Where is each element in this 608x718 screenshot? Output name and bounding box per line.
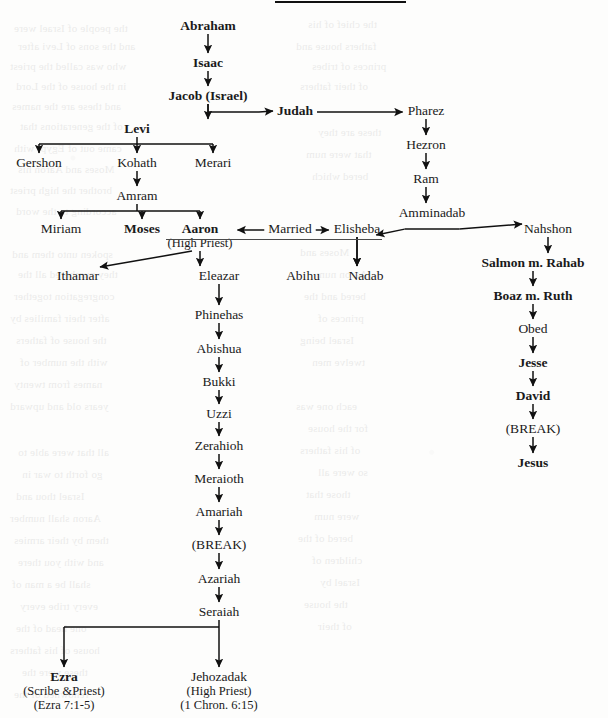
- node-abishua: Abishua: [197, 341, 242, 356]
- node-label: Merari: [195, 155, 232, 170]
- node-ithamar: Ithamar: [57, 268, 99, 283]
- node-isaac: Isaac: [193, 55, 223, 70]
- node-label: (BREAK): [506, 421, 561, 436]
- node-jehozadak: Jehozadak(High Priest)(1 Chron. 6:15): [180, 669, 257, 712]
- node-label: Gershon: [16, 155, 62, 170]
- node-label: Zerahioh: [195, 438, 244, 453]
- node-label: Boaz m. Ruth: [493, 288, 572, 303]
- node-david: David: [516, 388, 551, 403]
- node-eleazar: Eleazar: [199, 268, 239, 283]
- node-boaz: Boaz m. Ruth: [493, 288, 572, 303]
- node-label: Jesse: [518, 355, 547, 370]
- node-jacob: Jacob (Israel): [168, 88, 247, 103]
- node-label: Miriam: [41, 221, 82, 236]
- node-label: Abraham: [180, 18, 236, 33]
- node-label: Jehozadak: [191, 669, 247, 684]
- node-married: Married: [268, 221, 311, 236]
- node-label: David: [516, 388, 551, 403]
- node-break_p: (BREAK): [192, 537, 247, 552]
- node-ezra: Ezra(Scribe &Priest)(Ezra 7:1-5): [23, 669, 105, 712]
- node-break_d: (BREAK): [506, 421, 561, 436]
- node-judah: Judah: [277, 103, 313, 118]
- node-sublabel: (High Priest): [180, 684, 257, 698]
- node-label: Meraioth: [194, 471, 244, 486]
- node-amminadab: Amminadab: [399, 205, 466, 220]
- node-ram: Ram: [413, 171, 439, 186]
- node-label: Salmon m. Rahab: [481, 255, 584, 270]
- node-merari: Merari: [195, 155, 232, 170]
- node-label: Levi: [124, 121, 150, 136]
- node-label: Uzzi: [206, 406, 231, 421]
- node-obed: Obed: [518, 321, 547, 336]
- node-label: Ram: [413, 171, 439, 186]
- marriage-band-underline: [166, 239, 383, 240]
- node-jesse: Jesse: [518, 355, 547, 370]
- node-meraioth: Meraioth: [194, 471, 244, 486]
- node-label: Ithamar: [57, 268, 99, 283]
- node-label: Kohath: [117, 155, 157, 170]
- node-jesus: Jesus: [518, 455, 549, 470]
- node-abraham: Abraham: [180, 18, 236, 33]
- node-salmon: Salmon m. Rahab: [481, 255, 584, 270]
- node-nadab: Nadab: [348, 268, 383, 283]
- node-label: Eleazar: [199, 268, 239, 283]
- node-hezron: Hezron: [406, 137, 446, 152]
- node-label: Isaac: [193, 55, 223, 70]
- node-label: Ezra: [50, 669, 78, 684]
- node-label: Elisheba: [334, 221, 381, 236]
- node-label: Bukki: [202, 374, 235, 389]
- node-label: Phinehas: [195, 307, 244, 322]
- node-label: Jacob (Israel): [168, 88, 247, 103]
- node-label: Abihu: [286, 268, 320, 283]
- node-phinehas: Phinehas: [195, 307, 244, 322]
- node-label: Nahshon: [524, 221, 572, 236]
- node-label: Aaron: [182, 221, 219, 236]
- node-label: Amram: [116, 188, 157, 203]
- node-amariah: Amariah: [195, 504, 242, 519]
- node-seraiah: Seraiah: [199, 604, 239, 619]
- node-label: Jesus: [518, 455, 549, 470]
- node-label: Moses: [124, 221, 160, 236]
- node-label: Married: [268, 221, 311, 236]
- node-label: Amariah: [195, 504, 242, 519]
- node-aaron: Aaron(High Priest): [168, 221, 233, 250]
- node-bukki: Bukki: [202, 374, 235, 389]
- node-kohath: Kohath: [117, 155, 157, 170]
- node-nahshon: Nahshon: [524, 221, 572, 236]
- node-label: Judah: [277, 103, 313, 118]
- node-gershon: Gershon: [16, 155, 62, 170]
- node-label: Hezron: [406, 137, 446, 152]
- node-moses: Moses: [124, 221, 160, 236]
- node-azariah: Azariah: [198, 571, 241, 586]
- node-sublabel-secondary: (Ezra 7:1-5): [23, 698, 105, 712]
- node-layer: AbrahamIsaacJacob (Israel)JudahPharezHez…: [0, 0, 608, 718]
- node-uzzi: Uzzi: [206, 406, 231, 421]
- node-label: Amminadab: [399, 205, 466, 220]
- node-pharez: Pharez: [408, 103, 445, 118]
- node-sublabel-secondary: (1 Chron. 6:15): [180, 698, 257, 712]
- node-label: (BREAK): [192, 537, 247, 552]
- node-label: Nadab: [348, 268, 383, 283]
- node-zerahioh: Zerahioh: [195, 438, 244, 453]
- node-label: Azariah: [198, 571, 241, 586]
- node-elisheba: Elisheba: [334, 221, 381, 236]
- node-abihu: Abihu: [286, 268, 320, 283]
- node-label: Abishua: [197, 341, 242, 356]
- node-label: Pharez: [408, 103, 445, 118]
- node-amram: Amram: [116, 188, 157, 203]
- node-label: Obed: [518, 321, 547, 336]
- node-levi: Levi: [124, 121, 150, 136]
- node-miriam: Miriam: [41, 221, 82, 236]
- node-label: Seraiah: [199, 604, 239, 619]
- genealogy-chart-page: the people of Israel wereand the sons of…: [0, 0, 608, 718]
- node-sublabel: (Scribe &Priest): [23, 684, 105, 698]
